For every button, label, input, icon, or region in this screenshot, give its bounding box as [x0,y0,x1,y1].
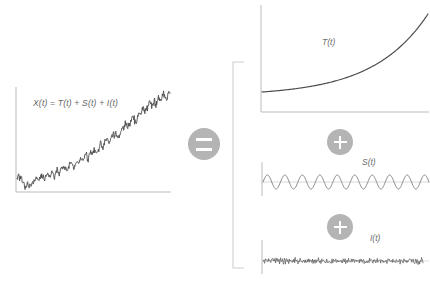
plus-glyph-vertical [339,136,341,149]
equals-glyph-top [196,138,212,141]
trend-label: T(t) [322,37,335,47]
equals-glyph-bottom [196,148,212,151]
grouping-bracket [233,62,244,268]
observed-equation-label: X(t) = T(t) + S(t) + I(t) [33,98,118,108]
irregular-label: I(t) [370,233,380,243]
irregular-series-line [263,257,423,264]
trend-series-line [262,14,428,92]
plus-badge-seasonal-irregular [327,214,353,240]
irregular-panel-axes [262,240,429,274]
seasonal-label: S(t) [362,157,376,167]
timeseries-decomposition-figure: X(t) = T(t) + S(t) + I(t) T(t) S(t) I(t) [0,0,430,286]
plus-badge-trend-seasonal [327,129,353,155]
trend-panel-axes [261,5,429,112]
equals-badge [188,128,220,160]
plus-glyph-vertical [339,221,341,234]
